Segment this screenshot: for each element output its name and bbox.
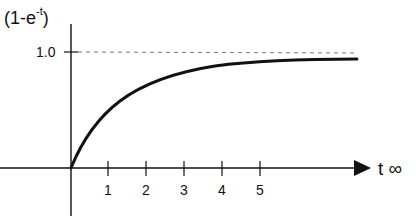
x-tick-label-2: 2 (138, 183, 154, 197)
x-tick-label-4: 4 (214, 183, 230, 197)
asymptote-line (78, 52, 357, 53)
x-tick-label-5: 5 (252, 183, 268, 197)
x-axis-label: t ∞ (378, 159, 402, 178)
y-tick-label: 1.0 (36, 45, 55, 59)
exponential-curve (71, 59, 357, 168)
diagram-canvas (0, 0, 416, 223)
x-axis-arrow-icon (354, 160, 371, 176)
x-tick-label-3: 3 (176, 183, 192, 197)
y-axis-label: (1-e-t) (4, 8, 49, 27)
x-tick-label-1: 1 (100, 183, 116, 197)
